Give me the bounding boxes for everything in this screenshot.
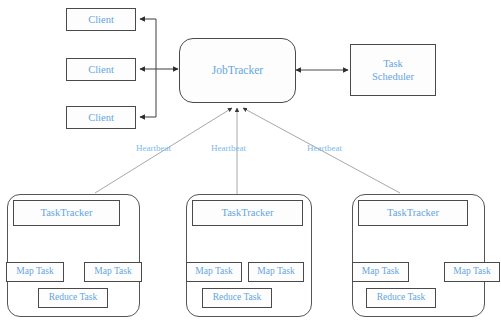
reduce-task-node-1[interactable]: Reduce Task [38, 288, 108, 308]
jobtracker-node[interactable]: JobTracker [179, 38, 296, 103]
client-node-2[interactable]: Client [66, 58, 136, 81]
map-task-label: Map Task [16, 266, 53, 278]
tasktracker-node-1[interactable]: TaskTracker [13, 200, 120, 226]
map-task-node-2-left[interactable]: Map Task [186, 262, 242, 282]
task-scheduler-node[interactable]: Task Scheduler [350, 44, 436, 96]
map-task-node-3-right[interactable]: Map Task [444, 262, 500, 282]
client-node-1[interactable]: Client [66, 8, 136, 31]
task-scheduler-label-line2: Scheduler [372, 70, 414, 83]
architecture-diagram: Client Client Client JobTracker Task Sch… [0, 0, 501, 325]
heartbeat-label-3: Heartbeat [307, 143, 342, 153]
reduce-task-label: Reduce Task [49, 292, 98, 304]
map-task-node-1-left[interactable]: Map Task [6, 262, 64, 282]
task-scheduler-label-line1: Task [383, 57, 403, 70]
reduce-task-node-3[interactable]: Reduce Task [366, 288, 436, 308]
client-label: Client [88, 63, 114, 76]
heartbeat-label-1: Heartbeat [136, 143, 171, 153]
jobtracker-label: JobTracker [212, 63, 263, 77]
reduce-task-label: Reduce Task [213, 292, 262, 304]
client-bus-wires [140, 19, 178, 117]
map-task-label: Map Task [362, 266, 399, 278]
map-task-node-2-right[interactable]: Map Task [248, 262, 304, 282]
map-task-label: Map Task [94, 266, 131, 278]
map-task-node-1-right[interactable]: Map Task [84, 262, 142, 282]
client-label: Client [88, 111, 114, 124]
heartbeat-label-2: Heartbeat [211, 143, 246, 153]
client-label: Client [88, 13, 114, 26]
tasktracker-label: TaskTracker [222, 206, 274, 219]
reduce-task-label: Reduce Task [377, 292, 426, 304]
tasktracker-label: TaskTracker [41, 206, 93, 219]
client-node-3[interactable]: Client [66, 106, 136, 129]
map-task-label: Map Task [453, 266, 490, 278]
map-task-label: Map Task [257, 266, 294, 278]
map-task-label: Map Task [195, 266, 232, 278]
tasktracker-label: TaskTracker [387, 206, 439, 219]
tasktracker-node-2[interactable]: TaskTracker [192, 200, 303, 226]
tasktracker-node-3[interactable]: TaskTracker [358, 200, 468, 226]
reduce-task-node-2[interactable]: Reduce Task [202, 288, 272, 308]
map-task-node-3-left[interactable]: Map Task [352, 262, 409, 282]
